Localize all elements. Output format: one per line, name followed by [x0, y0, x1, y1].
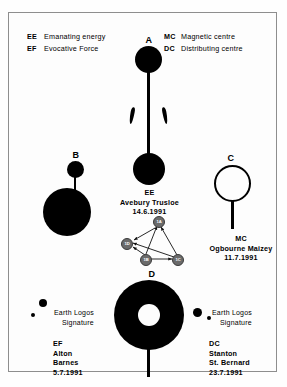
legend-row-dc: DCDistributing centre	[164, 43, 243, 55]
diagram-sheet: EEEmanating energy EFEvocative Force MCM…	[0, 0, 287, 387]
caption-dc-place2: St. Bernard	[209, 358, 287, 368]
legend-desc-mc: Magnetic centre	[181, 32, 235, 41]
caption-ef-place1: Alton	[53, 349, 133, 359]
figure-c-outline-circle	[214, 165, 251, 202]
legend-desc-ee: Emanating energy	[44, 32, 106, 41]
caption-dc-code: DC	[209, 339, 287, 349]
earth-logos-right-large-dot	[193, 308, 202, 317]
earth-logos-left-line1: Earth Logos	[54, 308, 94, 318]
caption-dc-date: 23.7.1991	[209, 368, 287, 378]
legend-row-ee: EEEmanating energy	[27, 31, 106, 43]
earth-logos-right-line1: Earth Logos	[212, 308, 252, 318]
earth-logos-left-small-dot	[31, 313, 35, 317]
legend-code-dc: DC	[164, 43, 181, 55]
figure-a-right-flame-mark	[161, 107, 168, 124]
legend-code-ee: EE	[27, 31, 44, 43]
caption-dc: DC Stanton St. Bernard 23.7.1991	[209, 339, 287, 377]
caption-ef-date: 5.7.1991	[53, 368, 133, 378]
earth-logos-left-label: Earth Logos Signature	[54, 308, 94, 328]
earth-logos-left-large-dot	[39, 299, 47, 307]
caption-ee-code: EE	[102, 188, 197, 198]
legend-row-ef: EFEvocative Force	[27, 43, 106, 55]
figure-b-base-disc	[43, 188, 91, 236]
caption-dc-place1: Stanton	[209, 349, 287, 359]
caption-ee: EE Avebury Trusloe 14.6.1991	[102, 188, 197, 217]
legend-row-mc: MCMagnetic centre	[164, 31, 243, 43]
figure-a-left-flame-mark	[128, 107, 135, 124]
node-cluster-diagram: 1A 1D 1B 1C	[121, 214, 193, 266]
caption-ef-place2: Barnes	[53, 358, 133, 368]
caption-ee-place: Avebury Trusloe	[102, 198, 197, 208]
legend-right: MCMagnetic centre DCDistributing centre	[164, 31, 243, 55]
caption-mc: MC Ogbourne Maizey 11.7.1991	[191, 234, 287, 263]
legend-left: EEEmanating energy EFEvocative Force	[27, 31, 106, 55]
caption-mc-code: MC	[191, 234, 287, 244]
earth-logos-right-small-dot	[207, 316, 211, 320]
legend-desc-ef: Evocative Force	[44, 44, 99, 53]
figure-c-stem	[231, 201, 234, 229]
cluster-node-1a[interactable]: 1A	[153, 216, 165, 228]
figure-d-annulus-hole	[138, 304, 160, 326]
diagram-frame: EEEmanating energy EFEvocative Force MCM…	[8, 12, 277, 372]
cluster-node-1b[interactable]: 1B	[140, 254, 152, 266]
legend-code-mc: MC	[164, 31, 181, 43]
caption-ef-code: EF	[53, 339, 133, 349]
figure-label-d: D	[142, 269, 162, 279]
figure-label-c: C	[221, 153, 241, 163]
cluster-node-1d[interactable]: 1D	[121, 238, 133, 250]
figure-a-stem	[147, 71, 150, 156]
earth-logos-left-line2: Signature	[54, 318, 94, 328]
legend-code-ef: EF	[27, 43, 44, 55]
figure-label-a: A	[137, 35, 161, 45]
figure-label-b: B	[66, 150, 86, 160]
caption-ef: EF Alton Barnes 5.7.1991	[53, 339, 133, 377]
caption-mc-place: Ogbourne Maizey	[191, 244, 287, 254]
figure-a-head-disc	[135, 46, 162, 73]
caption-mc-date: 11.7.1991	[191, 253, 287, 263]
legend-desc-dc: Distributing centre	[181, 44, 243, 53]
earth-logos-right-line2: Signature	[212, 318, 252, 328]
earth-logos-right-label: Earth Logos Signature	[212, 308, 252, 328]
figure-a-base-disc	[133, 153, 165, 185]
figure-d-stem	[147, 347, 150, 377]
cluster-node-1c[interactable]: 1C	[172, 254, 184, 266]
